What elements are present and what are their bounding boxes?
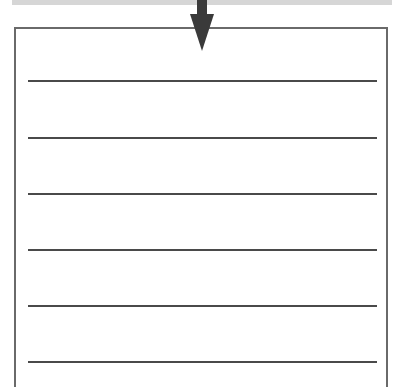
ruled-line <box>28 305 377 307</box>
arrow-down-icon <box>186 0 218 54</box>
ruled-line <box>28 193 377 195</box>
ruled-line <box>28 137 377 139</box>
ruled-line <box>28 361 377 363</box>
ruled-line <box>28 249 377 251</box>
ruled-line <box>28 80 377 82</box>
